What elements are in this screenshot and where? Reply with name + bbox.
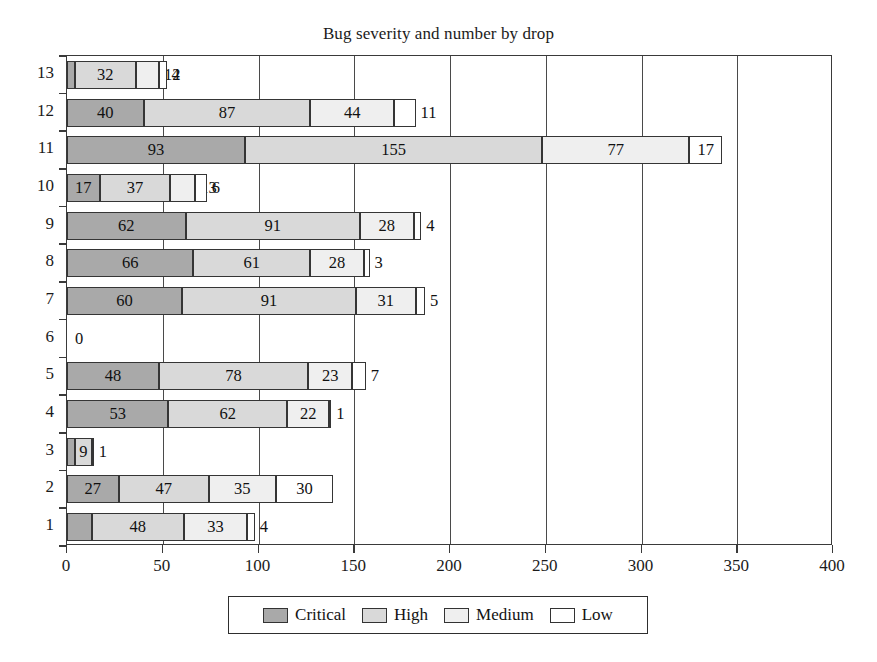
- bar-segment-medium: [170, 174, 195, 202]
- legend-label: Critical: [295, 605, 346, 625]
- bar-row: 6291284: [67, 212, 831, 240]
- bar-segment-critical: 60: [67, 287, 182, 315]
- bar-segment-high: 78: [159, 362, 308, 390]
- bar-zero-label: 0: [75, 325, 83, 353]
- y-tick-label-13: 13: [12, 63, 54, 83]
- y-tick-label-5: 5: [12, 364, 54, 384]
- legend-label: High: [394, 605, 428, 625]
- x-tick-label-100: 100: [228, 556, 288, 576]
- bar-row: 432124: [67, 61, 831, 89]
- legend-swatch-high-icon: [362, 608, 387, 623]
- bar-segment-medium: 77: [542, 136, 689, 164]
- bar-segment-medium: 35: [209, 475, 276, 503]
- x-tick-label-0: 0: [36, 556, 96, 576]
- y-tick-mark: [59, 130, 67, 132]
- bar-segment-medium: 23: [308, 362, 352, 390]
- bar-segment-low: [352, 362, 365, 390]
- y-tick-label-12: 12: [12, 101, 54, 121]
- bar-row: 6091315: [67, 287, 831, 315]
- legend-swatch-critical-icon: [263, 608, 288, 623]
- legend-item-medium[interactable]: Medium: [444, 605, 534, 625]
- bar-segment-label-low: 1: [99, 438, 107, 466]
- bar-segment-label-low: 4: [172, 61, 180, 89]
- y-tick-mark: [59, 55, 67, 57]
- chart-legend: CriticalHighMediumLow: [228, 596, 648, 634]
- bar-segment-high: 9: [75, 438, 92, 466]
- plot-area: 4321244087441193155771717371366291284666…: [66, 55, 832, 545]
- bar-row: 1348334: [67, 513, 831, 541]
- bar-segment-critical: [67, 61, 75, 89]
- x-tick-label-400: 400: [802, 556, 862, 576]
- legend-item-critical[interactable]: Critical: [263, 605, 346, 625]
- x-tick-label-200: 200: [419, 556, 479, 576]
- bar-segment-medium: 28: [310, 249, 364, 277]
- bar-row: 4878237: [67, 362, 831, 390]
- x-tick-mark: [641, 545, 642, 553]
- bug-severity-chart: Bug severity and number by drop 43212440…: [0, 0, 877, 662]
- bar-segment-critical: 53: [67, 400, 168, 428]
- bar-segment-high: 32: [75, 61, 136, 89]
- legend-item-high[interactable]: High: [362, 605, 428, 625]
- chart-title: Bug severity and number by drop: [0, 24, 877, 44]
- y-tick-label-3: 3: [12, 440, 54, 460]
- bar-segment-medium: 44: [310, 99, 394, 127]
- x-tick-mark: [736, 545, 737, 553]
- x-tick-label-250: 250: [515, 556, 575, 576]
- bar-segment-medium: 31: [356, 287, 415, 315]
- y-tick-mark: [59, 432, 67, 434]
- legend-swatch-low-icon: [550, 608, 575, 623]
- bar-segment-medium: 22: [287, 400, 329, 428]
- bar-segment-label-low: 7: [371, 362, 379, 390]
- bar-row: 6661283: [67, 249, 831, 277]
- bar-segment-label-low: 6: [212, 174, 220, 202]
- bar-segment-label-low: 5: [430, 287, 438, 315]
- x-tick-mark: [449, 545, 450, 553]
- x-tick-mark: [66, 545, 67, 553]
- y-tick-label-1: 1: [12, 515, 54, 535]
- y-tick-mark: [59, 470, 67, 472]
- bar-segment-label-low: 4: [260, 513, 268, 541]
- y-tick-label-7: 7: [12, 289, 54, 309]
- bar-segment-low: [364, 249, 370, 277]
- y-tick-mark: [59, 281, 67, 283]
- legend-item-low[interactable]: Low: [550, 605, 613, 625]
- y-tick-mark: [59, 357, 67, 359]
- bar-segment-medium: 33: [184, 513, 247, 541]
- y-tick-mark: [59, 507, 67, 509]
- bar-segment-low: [416, 287, 426, 315]
- bar-segment-high: 61: [193, 249, 310, 277]
- bar-segment-high: 87: [144, 99, 311, 127]
- bar-segment-critical: 27: [67, 475, 119, 503]
- bar-row: 27473530: [67, 475, 831, 503]
- bar-segment-low: [195, 174, 206, 202]
- y-tick-label-8: 8: [12, 251, 54, 271]
- y-tick-label-10: 10: [12, 176, 54, 196]
- bar-segment-high: 91: [182, 287, 356, 315]
- bar-row: 1737136: [67, 174, 831, 202]
- bar-row: 0: [67, 325, 831, 353]
- bar-segment-critical: [67, 513, 92, 541]
- legend-label: Medium: [476, 605, 534, 625]
- bar-segment-low: [92, 438, 94, 466]
- bar-segment-high: 37: [100, 174, 171, 202]
- y-tick-mark: [59, 243, 67, 245]
- x-tick-mark: [353, 545, 354, 553]
- y-tick-label-11: 11: [12, 138, 54, 158]
- bar-segment-low: [329, 400, 331, 428]
- bar-segment-high: 62: [168, 400, 287, 428]
- x-tick-label-150: 150: [323, 556, 383, 576]
- bar-segment-low: 17: [689, 136, 722, 164]
- legend-swatch-medium-icon: [444, 608, 469, 623]
- bar-row: 40874411: [67, 99, 831, 127]
- bar-segment-high: 91: [186, 212, 360, 240]
- bar-row: 491: [67, 438, 831, 466]
- y-tick-mark: [59, 93, 67, 95]
- bar-segment-low: [394, 99, 415, 127]
- x-tick-mark: [162, 545, 163, 553]
- y-tick-label-6: 6: [12, 327, 54, 347]
- bar-segment-medium: 28: [360, 212, 414, 240]
- y-tick-label-4: 4: [12, 402, 54, 422]
- bar-segment-low: 30: [276, 475, 333, 503]
- bar-segment-high: 48: [92, 513, 184, 541]
- x-tick-mark: [258, 545, 259, 553]
